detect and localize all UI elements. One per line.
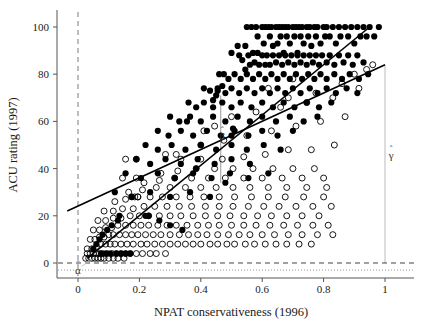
filled-circle-point [305,33,311,39]
filled-circle-point [274,40,280,46]
filled-circle-point [324,24,330,30]
plot-canvas: 00.20.40.60.81 020406080100 ˆαˆβˆγ NPAT … [0,0,422,325]
x-tick-label: 0 [75,283,81,295]
filled-circle-point [228,156,234,162]
filled-circle-point [340,59,346,65]
filled-circle-point [167,114,173,120]
filled-circle-point [198,142,204,148]
filled-circle-point [265,170,271,176]
filled-circle-point [228,50,234,56]
filled-circle-point [256,71,262,77]
filled-circle-point [146,213,152,219]
filled-circle-point [285,59,291,65]
filled-circle-point [115,217,121,223]
filled-circle-point [354,90,360,96]
filled-circle-point [270,52,276,58]
filled-circle-point [250,76,256,82]
filled-circle-point [155,147,161,153]
filled-circle-point [327,33,333,39]
filled-circle-point [127,250,133,256]
filled-circle-point [345,33,351,39]
filled-circle-point [245,132,251,138]
y-axis-title: ACU rating (1997) [6,97,20,192]
x-tick-label: 1 [382,283,388,295]
filled-circle-point [314,24,320,30]
filled-circle-point [336,24,342,30]
filled-circle-point [147,161,153,167]
filled-circle-point [293,71,299,77]
filled-circle-point [274,76,280,82]
filled-circle-point [287,114,293,120]
filled-circle-point [142,142,148,148]
filled-circle-point [301,40,307,46]
filled-circle-point [316,104,322,110]
filled-circle-point [185,99,191,105]
filled-circle-point [129,194,135,200]
filled-circle-point [228,85,234,91]
y-tick-label: 100 [33,21,50,33]
filled-circle-point [238,76,244,82]
filled-circle-point [207,194,213,200]
filled-circle-point [256,62,262,68]
filled-circle-point [347,71,353,77]
filled-circle-point [190,132,196,138]
filled-circle-point [222,118,228,124]
alpha-hat-symbol: α [75,264,81,276]
filled-circle-point [294,52,300,58]
filled-circle-point [147,189,153,195]
filled-circle-point [245,175,251,181]
filled-circle-point [210,104,216,110]
filled-circle-point [288,52,294,58]
filled-circle-point [273,59,279,65]
x-tick-label: 0.6 [255,283,269,295]
filled-circle-point [238,99,244,105]
y-tick-label: 80 [38,68,50,80]
filled-circle-point [247,161,253,167]
filled-circle-point [354,52,360,58]
filled-circle-point [182,147,188,153]
beta-hat-symbol: β [219,130,225,142]
filled-circle-point [187,114,193,120]
filled-circle-point [276,52,282,58]
filled-circle-point [244,147,250,153]
filled-circle-point [287,76,293,82]
filled-circle-point [354,24,360,30]
filled-circle-point [219,99,225,105]
y-tick-label: 0 [44,257,50,269]
filled-circle-point [279,62,285,68]
filled-circle-point [344,85,350,91]
x-tick-label: 0.2 [133,283,147,295]
filled-circle-point [297,59,303,65]
filled-circle-point [313,52,319,58]
filled-circle-point [235,114,241,120]
filled-circle-point [291,33,297,39]
filled-circle-point [328,99,334,105]
filled-circle-point [282,52,288,58]
filled-circle-point [242,43,248,49]
filled-circle-point [178,128,184,134]
filled-circle-point [281,99,287,105]
filled-circle-point [261,142,267,148]
filled-circle-point [274,85,280,91]
filled-circle-point [261,40,267,46]
filled-circle-point [376,24,382,30]
filled-circle-point [262,76,268,82]
filled-circle-point [179,227,185,233]
filled-circle-point [99,232,105,238]
filled-circle-point [227,170,233,176]
filled-circle-point [193,104,199,110]
filled-circle-point [360,59,366,65]
filled-circle-point [122,170,128,176]
filled-circle-point [222,180,228,186]
filled-circle-point [210,114,216,120]
filled-circle-point [311,76,317,82]
filled-circle-point [235,43,241,49]
filled-circle-point [201,85,207,91]
filled-circle-point [104,227,110,233]
filled-circle-point [342,24,348,30]
filled-circle-point [348,24,354,30]
figure-background [0,0,422,325]
filled-circle-point [307,52,313,58]
filled-circle-point [195,156,201,162]
x-tick-label: 0.8 [317,283,331,295]
